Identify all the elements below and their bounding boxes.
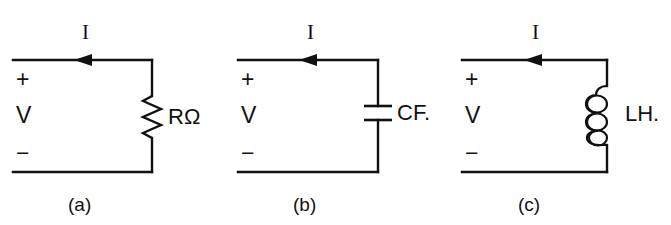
- voltage-label-c: V: [465, 104, 480, 127]
- resistor-zigzag-icon: [143, 96, 161, 138]
- circuit-a-resistor: I + V − RΩ (a): [0, 0, 225, 225]
- current-arrow-icon: [74, 54, 92, 66]
- caption-b: (b): [293, 195, 316, 214]
- capacitor-plates-icon: [364, 106, 392, 120]
- circuit-c-inductor: I + V − LH. (c): [450, 0, 671, 225]
- current-label-c: I: [532, 22, 539, 43]
- polarity-minus-b: −: [241, 142, 254, 165]
- resistor-label: RΩ: [168, 106, 200, 128]
- caption-c: (c): [518, 195, 540, 214]
- current-label-a: I: [82, 22, 89, 43]
- capacitor-label: CF.: [397, 102, 430, 124]
- polarity-plus-b: +: [241, 68, 254, 91]
- polarity-plus-a: +: [16, 68, 29, 91]
- inductor-label: LH.: [625, 103, 659, 125]
- inductor-coil-icon: [586, 86, 607, 146]
- voltage-label-b: V: [241, 104, 256, 127]
- current-label-b: I: [307, 22, 314, 43]
- polarity-minus-c: −: [465, 142, 478, 165]
- voltage-label-a: V: [16, 104, 31, 127]
- circuit-b-capacitor: I + V − CF. (b): [225, 0, 450, 225]
- caption-a: (a): [68, 195, 91, 214]
- current-arrow-icon: [299, 54, 317, 66]
- polarity-minus-a: −: [16, 142, 29, 165]
- current-arrow-icon: [524, 54, 542, 66]
- polarity-plus-c: +: [465, 68, 478, 91]
- circuit-figure: I + V − RΩ (a) I + V − CF. (b): [0, 0, 671, 225]
